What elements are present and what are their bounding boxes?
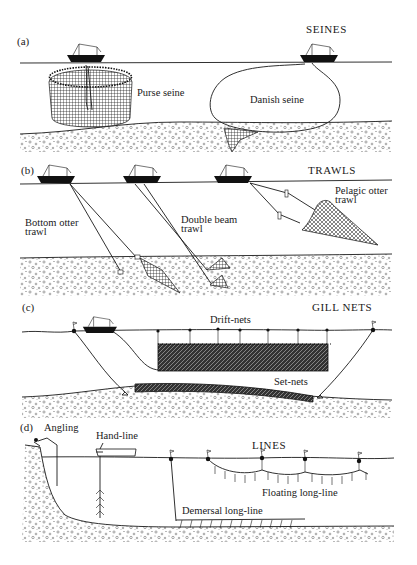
floating-long-line-gear [206, 449, 368, 485]
fishing-methods-diagram: (a) SEINES Purse seine Danish seine (b) … [0, 0, 417, 565]
buoy-flag-icon [371, 321, 376, 332]
seabed [20, 254, 392, 296]
hand-line-label: Hand-line [96, 430, 138, 441]
category-label-gill-nets: GILL NETS [312, 301, 372, 313]
water-surface [22, 330, 392, 333]
boat-icon [214, 165, 252, 183]
category-label-trawls: TRAWLS [308, 164, 356, 176]
drift-nets-label: Drift-nets [210, 314, 251, 325]
demersal-long-line-label: Demersal long-line [182, 505, 263, 516]
double-beam-trawl-label-2: trawl [181, 223, 203, 234]
panel-label-c: (c) [22, 301, 35, 314]
danish-seine-label: Danish seine [250, 94, 304, 105]
boat-icon [37, 165, 75, 183]
set-nets-label: Set-nets [274, 376, 308, 387]
pelagic-otter-trawl-label-2: trawl [335, 194, 357, 205]
hand-line-gear [96, 443, 136, 518]
buoy-flag-icon [303, 450, 308, 461]
panel-gill-nets: (c) GILL NETS Drift-nets Set-nets [22, 301, 392, 418]
category-label-lines: LINES [252, 439, 286, 451]
boat-icon [300, 44, 338, 62]
panel-label-a: (a) [17, 35, 30, 48]
panel-label-b: (b) [21, 164, 34, 177]
boat-icon [67, 44, 105, 62]
panel-label-d: (d) [20, 421, 33, 434]
angling-label: Angling [44, 422, 79, 433]
buoy-flag-icon [357, 452, 362, 463]
panel-seines: (a) SEINES Purse seine Danish seine [17, 23, 392, 152]
panel-trawls: (b) TRAWLS Bottom otter trawl Double bea… [20, 164, 392, 296]
floating-long-line-label: Floating long-line [262, 487, 338, 498]
category-label-seines: SEINES [306, 23, 347, 35]
water-surface [40, 457, 394, 459]
water-surface [20, 62, 392, 63]
boat-icon [83, 317, 117, 333]
water-surface [20, 180, 392, 184]
drift-nets-gear [112, 327, 332, 371]
purse-seine-label: Purse seine [137, 87, 185, 98]
boat-icon [123, 165, 161, 183]
purse-seine-net [49, 65, 132, 127]
panel-lines: (d) LINES Angling Hand-line Demersal lon… [20, 421, 394, 542]
bottom-otter-trawl-label-2: trawl [25, 226, 47, 237]
